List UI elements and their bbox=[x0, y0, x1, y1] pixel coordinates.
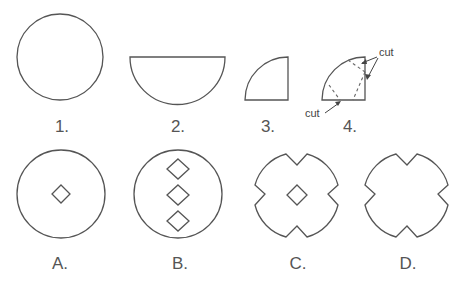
option-c-label: C. bbox=[278, 254, 318, 274]
paper-folding-diagram bbox=[0, 0, 464, 294]
arrowhead-2 bbox=[365, 74, 371, 80]
arrow-2 bbox=[368, 58, 378, 77]
option-b-diamond-3 bbox=[167, 211, 189, 231]
option-b-circle bbox=[134, 150, 222, 238]
step-1-label: 1. bbox=[42, 117, 82, 137]
step-3-label: 3. bbox=[248, 117, 288, 137]
arrowhead-1 bbox=[361, 59, 367, 64]
step-2-semicircle bbox=[130, 57, 225, 105]
cut-line-right bbox=[353, 72, 365, 100]
cut-line-left bbox=[329, 85, 340, 100]
option-c-diamond bbox=[287, 185, 307, 205]
step-4-label: 4. bbox=[330, 117, 370, 137]
step-3-quarter bbox=[245, 57, 288, 100]
step-1-circle bbox=[17, 14, 103, 100]
option-b-label: B. bbox=[160, 254, 200, 274]
option-b-diamond-1 bbox=[167, 159, 189, 179]
option-d-notched-shape bbox=[365, 154, 448, 237]
option-c-notched-shape bbox=[255, 154, 338, 237]
cut-label-top: cut bbox=[379, 46, 394, 58]
step-2-label: 2. bbox=[158, 117, 198, 137]
option-d-label: D. bbox=[388, 254, 428, 274]
cut-line-top bbox=[348, 60, 365, 72]
step-4-quarter bbox=[322, 57, 365, 100]
option-a-label: A. bbox=[40, 254, 80, 274]
option-a-diamond bbox=[52, 185, 70, 203]
option-a-circle bbox=[17, 150, 105, 238]
cut-label-bottom: cut bbox=[305, 107, 320, 119]
option-b-diamond-2 bbox=[167, 185, 189, 205]
